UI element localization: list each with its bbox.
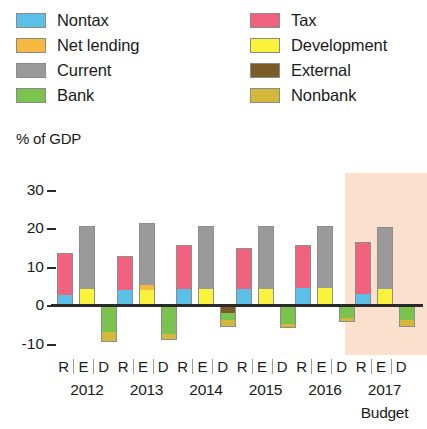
zero-baseline — [51, 304, 423, 307]
y-tick-20: 20 — [0, 219, 56, 237]
y-tick-label: 10 — [27, 258, 44, 275]
y-tick-label: 20 — [27, 219, 44, 236]
legend-column-left: Nontax Net lending Current Bank — [16, 8, 139, 108]
bar-2017-D — [399, 305, 415, 327]
legend-swatch-nontax — [16, 13, 46, 28]
bar-2012-D — [101, 305, 117, 342]
bar-2015-R — [236, 248, 252, 305]
bar-segment-current — [377, 227, 393, 289]
bar-segment-bank — [161, 305, 177, 334]
x-label-2017-D: D — [392, 358, 411, 375]
x-label-2016-D: D — [332, 358, 351, 375]
legend-label-nontax: Nontax — [57, 12, 109, 29]
bar-segment-tax — [57, 253, 73, 295]
red-group-2014: RED — [173, 358, 232, 375]
red-group-2013: RED — [114, 358, 173, 375]
legend-item-development: Development — [250, 33, 387, 57]
legend-item-external: External — [250, 58, 387, 82]
red-group-2015: RED — [233, 358, 292, 375]
legend-swatch-nonbank — [250, 88, 280, 103]
bar-segment-tax — [295, 245, 311, 287]
x-label-2014-R: R — [173, 358, 192, 375]
y-tick-label: -10 — [22, 335, 44, 352]
x-label-2016-E: E — [312, 358, 331, 375]
bar-2014-R — [176, 245, 192, 305]
red-group-2016: RED — [292, 358, 351, 375]
x-axis-year-2017: 2017 — [347, 381, 423, 399]
legend-item-tax: Tax — [250, 8, 387, 32]
bar-segment-development — [198, 289, 214, 305]
bar-segment-bank — [339, 305, 355, 318]
y-tick-label: 30 — [27, 181, 44, 198]
y-tick-30: 30 — [0, 181, 56, 199]
legend-item-current: Current — [16, 58, 139, 82]
x-label-2012-D: D — [94, 358, 113, 375]
bar-segment-current — [79, 226, 95, 289]
bar-2014-D — [220, 305, 236, 327]
legend-label-current: Current — [57, 62, 111, 79]
bar-segment-development — [377, 289, 393, 305]
bar-segment-nonbank — [280, 324, 296, 328]
bar-segment-development — [258, 289, 274, 305]
bar-segment-nontax — [117, 290, 133, 305]
bar-segment-development — [139, 290, 155, 305]
bar-segment-nonbank — [101, 332, 117, 342]
red-group-2012: RED — [54, 358, 113, 375]
bar-segment-nontax — [295, 288, 311, 305]
legend-label-tax: Tax — [291, 12, 316, 29]
bar-segment-tax — [236, 248, 252, 288]
x-label-2013-D: D — [154, 358, 173, 375]
y-tick-mark — [47, 228, 56, 230]
legend-label-external: External — [291, 62, 351, 79]
bar-segment-nontax — [236, 289, 252, 305]
y-tick-0: 0 — [0, 296, 56, 314]
bar-segment-current — [317, 226, 333, 288]
x-label-2013-E: E — [134, 358, 153, 375]
legend-swatch-bank — [16, 88, 46, 103]
bar-segment-nonbank — [220, 320, 236, 328]
bar-2012-R — [57, 253, 73, 305]
bar-segment-bank — [220, 313, 236, 320]
x-axis-note-2017: Budget — [347, 404, 423, 422]
bar-segment-tax — [355, 242, 371, 294]
chart-legend: Nontax Net lending Current Bank Tax Deve… — [0, 0, 427, 112]
legend-label-nonbank: Nonbank — [291, 87, 356, 104]
x-label-2012-E: E — [74, 358, 93, 375]
bar-segment-nonbank — [161, 334, 177, 340]
chart-plot-area: 3020100-10 — [0, 155, 427, 355]
bar-2015-D — [280, 305, 296, 328]
bar-2017-E — [377, 227, 393, 305]
bar-segment-nontax — [176, 289, 192, 305]
bar-2015-E — [258, 226, 274, 305]
legend-item-nonbank: Nonbank — [250, 83, 387, 107]
x-label-2012-R: R — [54, 358, 73, 375]
bar-2013-D — [161, 305, 177, 340]
bar-segment-bank — [280, 305, 296, 324]
y-axis-title: % of GDP — [16, 130, 81, 147]
x-label-2017-E: E — [372, 358, 391, 375]
bar-segment-development — [79, 289, 95, 305]
bar-segment-current — [198, 226, 214, 289]
y-tick-neg10: -10 — [0, 335, 56, 353]
legend-label-development: Development — [291, 37, 387, 54]
y-tick-mark — [47, 267, 56, 269]
bar-segment-bank — [399, 305, 415, 320]
x-label-2015-D: D — [273, 358, 292, 375]
legend-swatch-net-lending — [16, 38, 46, 53]
x-label-2015-R: R — [233, 358, 252, 375]
x-axis: RED2012RED2013RED2014RED2015RED2016RED20… — [0, 358, 427, 429]
legend-label-bank: Bank — [57, 87, 94, 104]
x-label-2014-D: D — [213, 358, 232, 375]
bar-segment-nonbank — [399, 320, 415, 327]
bar-segment-bank — [101, 305, 117, 332]
bar-2016-E — [317, 226, 333, 305]
legend-item-bank: Bank — [16, 83, 139, 107]
legend-column-right: Tax Development External Nonbank — [250, 8, 387, 108]
x-label-2015-E: E — [253, 358, 272, 375]
legend-swatch-external — [250, 63, 280, 78]
legend-swatch-tax — [250, 13, 280, 28]
bar-segment-development — [317, 288, 333, 305]
legend-label-net-lending: Net lending — [57, 37, 139, 54]
bar-segment-tax — [117, 256, 133, 291]
y-tick-10: 10 — [0, 258, 56, 276]
